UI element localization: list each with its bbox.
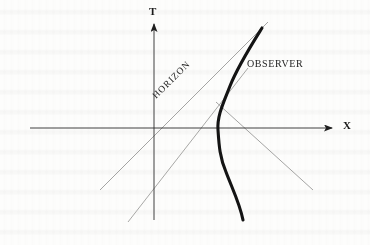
horizon-line-offset [128, 68, 248, 222]
descending-light-ray [216, 102, 313, 190]
time-axis-label: T [149, 5, 157, 17]
figure-canvas: T X HORIZON OBSERVER [0, 0, 370, 245]
spacetime-diagram-svg [0, 0, 370, 245]
horizon-line-through-origin [100, 22, 268, 190]
observer-label: OBSERVER [247, 58, 303, 69]
space-axis-label: X [343, 119, 351, 131]
